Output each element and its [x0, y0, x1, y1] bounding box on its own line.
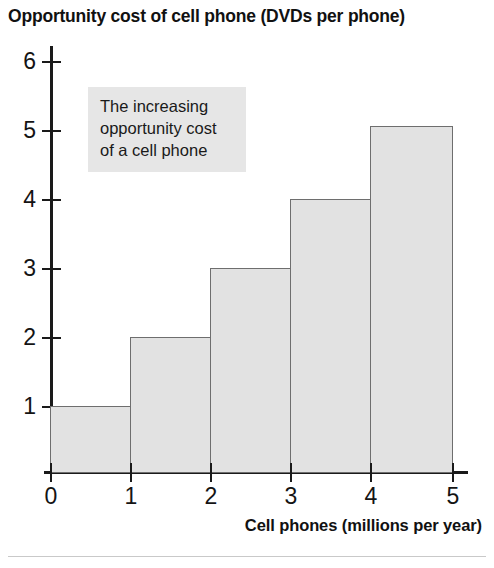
x-tick-5 — [452, 463, 454, 482]
x-tick-4 — [370, 463, 372, 482]
y-tick-4 — [42, 199, 61, 201]
y-tick-label-1-wrap: 1 — [0, 395, 36, 419]
plot-area: 6 5 4 3 2 1 0 1 2 3 4 5 The increasing o… — [0, 0, 494, 500]
bar-3-4 — [290, 199, 371, 473]
y-tick-label-5: 5 — [6, 119, 36, 142]
y-tick-label-6-wrap: 6 — [0, 50, 36, 74]
y-tick-6 — [42, 61, 61, 63]
y-tick-label-3: 3 — [6, 257, 36, 280]
x-tick-label-1: 1 — [111, 485, 151, 508]
x-tick-label-5: 5 — [433, 485, 473, 508]
annotation-callout: The increasing opportunity cost of a cel… — [88, 87, 246, 172]
y-tick-label-3-wrap: 3 — [0, 257, 36, 281]
x-axis-title: Cell phones (millions per year) — [0, 516, 482, 535]
x-tick-label-2: 2 — [191, 485, 231, 508]
x-tick-label-4: 4 — [351, 485, 391, 508]
y-tick-label-4-wrap: 4 — [0, 188, 36, 212]
y-tick-label-2: 2 — [6, 326, 36, 349]
annotation-line-2: opportunity cost — [100, 118, 235, 140]
y-tick-label-5-wrap: 5 — [0, 119, 36, 143]
y-tick-label-6: 6 — [6, 50, 36, 73]
y-tick-label-2-wrap: 2 — [0, 326, 36, 350]
y-tick-label-1: 1 — [6, 395, 36, 418]
y-tick-5 — [42, 130, 61, 132]
y-tick-label-4: 4 — [6, 188, 36, 211]
x-tick-2 — [210, 463, 212, 482]
bar-2-3 — [210, 268, 291, 473]
x-tick-3 — [290, 463, 292, 482]
y-tick-3 — [42, 268, 61, 270]
bar-1-2 — [130, 337, 211, 473]
bar-4-5 — [370, 126, 453, 473]
x-tick-label-3: 3 — [271, 485, 311, 508]
bottom-divider — [8, 556, 486, 557]
bar-0-1 — [50, 406, 131, 473]
annotation-line-3: of a cell phone — [100, 140, 235, 162]
y-tick-2 — [42, 337, 61, 339]
annotation-line-1: The increasing — [100, 96, 235, 118]
x-tick-0 — [50, 463, 52, 482]
x-tick-label-0: 0 — [31, 485, 71, 508]
x-tick-1 — [130, 463, 132, 482]
